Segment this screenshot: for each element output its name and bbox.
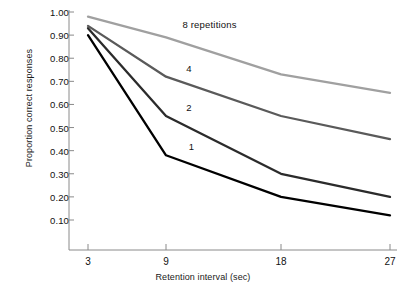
y-tick-label: 0.20 bbox=[33, 191, 69, 202]
y-tick-label: 0.40 bbox=[33, 145, 69, 156]
x-axis-ticks bbox=[88, 244, 390, 250]
y-axis-tick-labels: 1.000.900.800.700.600.500.400.300.200.10 bbox=[0, 0, 69, 295]
series-label: 2 bbox=[186, 102, 191, 113]
y-tick-label: 0.30 bbox=[33, 168, 69, 179]
line-chart-figure: 1.000.900.800.700.600.500.400.300.200.10… bbox=[0, 0, 406, 295]
y-tick-label: 0.90 bbox=[33, 30, 69, 41]
series-label: 8 repetitions bbox=[182, 19, 236, 30]
y-tick-label: 0.70 bbox=[33, 76, 69, 87]
x-tick-label: 27 bbox=[384, 256, 395, 267]
y-tick-label: 0.60 bbox=[33, 99, 69, 110]
series-line bbox=[88, 28, 390, 197]
y-tick-label: 1.00 bbox=[33, 7, 69, 18]
y-tick-label: 0.10 bbox=[33, 215, 69, 226]
y-axis-ticks bbox=[69, 12, 74, 220]
y-tick-label: 0.80 bbox=[33, 53, 69, 64]
data-series-lines bbox=[88, 17, 390, 216]
series-label: 4 bbox=[186, 63, 191, 74]
x-tick-label: 9 bbox=[163, 256, 169, 267]
series-label: 1 bbox=[189, 141, 194, 152]
series-line bbox=[88, 26, 390, 139]
x-axis-title: Retention interval (sec) bbox=[0, 272, 406, 282]
y-axis-title: Proportion correct responses bbox=[24, 23, 34, 193]
x-tick-label: 18 bbox=[275, 256, 286, 267]
x-tick-label: 3 bbox=[85, 256, 91, 267]
y-tick-label: 0.50 bbox=[33, 122, 69, 133]
